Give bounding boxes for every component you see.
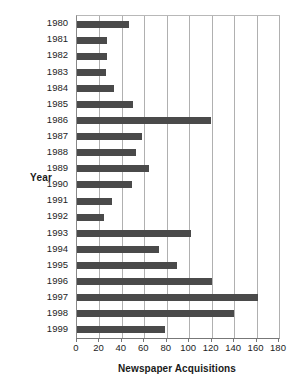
y-axis-tick-label: 1997 (36, 289, 72, 305)
bar (77, 230, 191, 237)
bar (77, 165, 149, 172)
y-axis-tick-label: 1992 (36, 208, 72, 224)
y-axis-tick-label: 1995 (36, 256, 72, 272)
bar (77, 326, 165, 333)
bar-row (77, 241, 279, 257)
y-axis-tick-label: 1996 (36, 273, 72, 289)
bar-row (77, 64, 279, 80)
bar-row (77, 80, 279, 96)
bar (77, 101, 133, 108)
bar-row (77, 96, 279, 112)
y-axis-tick-label: 1989 (36, 160, 72, 176)
y-axis-tick-label: 1990 (36, 176, 72, 192)
x-axis-tick-label: 100 (180, 343, 196, 353)
y-axis-tick-label: 1984 (36, 79, 72, 95)
bar (77, 133, 142, 140)
bar (77, 21, 129, 28)
bar (77, 294, 258, 301)
bar-row (77, 113, 279, 129)
x-axis-tick-label: 140 (225, 343, 241, 353)
y-axis-tick-label: 1994 (36, 240, 72, 256)
plot-area (76, 15, 280, 339)
x-axis-tick-label: 180 (270, 343, 286, 353)
y-axis-tick-label: 1998 (36, 305, 72, 321)
x-axis-tick-label: 40 (116, 343, 127, 353)
y-axis-tick-label: 1999 (36, 321, 72, 337)
bar-row (77, 177, 279, 193)
x-axis-tick-label: 80 (160, 343, 171, 353)
bar (77, 85, 114, 92)
bar-row (77, 145, 279, 161)
bar (77, 246, 159, 253)
y-axis-tick-label: 1981 (36, 31, 72, 47)
y-axis-tick-label: 1988 (36, 144, 72, 160)
bar-row (77, 274, 279, 290)
bar-row (77, 322, 279, 338)
bar-row (77, 193, 279, 209)
bar (77, 262, 177, 269)
bar (77, 37, 107, 44)
bar-row (77, 129, 279, 145)
bar-row (77, 290, 279, 306)
bar-row (77, 48, 279, 64)
y-axis-tick-label: 1993 (36, 224, 72, 240)
x-axis-tick-label: 0 (73, 343, 78, 353)
y-axis-tick-label: 1986 (36, 112, 72, 128)
bar (77, 69, 106, 76)
bar (77, 117, 211, 124)
y-axis-tick-labels: 1980198119821983198419851986198719881989… (36, 15, 72, 337)
y-axis-tick-label: 1985 (36, 95, 72, 111)
x-axis-tick-label: 60 (138, 343, 149, 353)
bar (77, 181, 132, 188)
bar-row (77, 16, 279, 32)
x-axis-title: Newspaper Acquisitions (76, 363, 278, 374)
bar (77, 214, 104, 221)
y-axis-tick-label: 1987 (36, 128, 72, 144)
bar-row (77, 306, 279, 322)
bar-row (77, 225, 279, 241)
bar-row (77, 161, 279, 177)
x-axis-tick-label: 120 (203, 343, 219, 353)
bar-row (77, 32, 279, 48)
bar (77, 53, 107, 60)
bar (77, 149, 136, 156)
gridline (279, 16, 280, 338)
x-axis-tick-labels: 020406080100120140160180 (0, 343, 300, 357)
y-axis-tick-label: 1983 (36, 63, 72, 79)
bar (77, 198, 112, 205)
x-axis-tick-label: 160 (248, 343, 264, 353)
x-axis-tick-label: 20 (93, 343, 104, 353)
y-axis-tick-label: 1980 (36, 15, 72, 31)
bar (77, 278, 212, 285)
bar-series (77, 16, 279, 338)
bar (77, 310, 234, 317)
bar-row (77, 209, 279, 225)
y-axis-tick-label: 1991 (36, 192, 72, 208)
y-axis-tick-label: 1982 (36, 47, 72, 63)
bar-row (77, 257, 279, 273)
newspaper-acquisitions-bar-chart: Year 19801981198219831984198519861987198… (0, 0, 300, 389)
